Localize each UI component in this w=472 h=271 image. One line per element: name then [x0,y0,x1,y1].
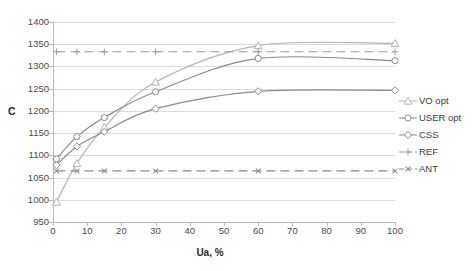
data-point-plus [255,48,262,55]
y-axis-tick [49,133,53,134]
legend-label: VO opt [418,95,449,106]
y-axis-tick [49,22,53,23]
x-axis-tick [190,222,191,226]
legend-label: REF [418,146,438,157]
plus-marker-icon [398,146,418,158]
y-axis-tick [49,66,53,67]
data-point-circle [153,89,159,95]
chart-legend: VO optUSER optCSSREFANT [398,92,472,177]
y-axis-tick [49,200,53,201]
series-line-vo-opt [56,42,395,202]
diamond-marker-icon [398,129,418,141]
data-point-plus [405,148,412,155]
y-axis-tick [49,155,53,156]
data-point-plus [152,48,159,55]
data-point-plus [101,48,108,55]
legend-item-ref[interactable]: REF [398,143,472,160]
triangle-marker-icon [398,95,418,107]
data-point-diamond [152,105,159,112]
data-point-circle [255,55,261,61]
x-axis-tick [258,222,259,226]
y-axis-tick [49,44,53,45]
legend-label: USER opt [418,112,461,123]
x-axis-tick [361,222,362,226]
data-point-circle [74,134,80,140]
series-line-user-opt [56,57,395,159]
circle-marker-icon [398,112,418,124]
chart-container: 950100010501100115012001250130013501400 … [0,0,472,271]
cross-marker-icon [398,163,418,175]
x-axis-tick [53,222,54,226]
data-point-triangle [73,160,81,167]
legend-label: CSS [418,129,439,140]
x-axis-tick [292,222,293,226]
data-point-plus [53,48,60,55]
data-point-circle [405,114,411,120]
data-point-plus [392,48,399,55]
legend-item-vo-opt[interactable]: VO opt [398,92,472,109]
x-axis-tick [121,222,122,226]
series-line-css [56,90,395,165]
data-point-plus [74,48,81,55]
data-point-circle [392,58,398,64]
x-axis-tick [156,222,157,226]
x-axis-tick [395,222,396,226]
data-point-diamond [255,88,262,95]
data-point-triangle [152,78,160,85]
x-axis-tick [224,222,225,226]
data-point-diamond [404,131,411,138]
y-axis-tick [49,178,53,179]
data-point-triangle [53,198,61,205]
x-axis-tick [327,222,328,226]
data-point-circle [101,114,107,120]
y-axis-tick [49,111,53,112]
legend-label: ANT [418,163,438,174]
legend-item-user-opt[interactable]: USER opt [398,109,472,126]
legend-item-css[interactable]: CSS [398,126,472,143]
legend-item-ant[interactable]: ANT [398,160,472,177]
x-axis-tick [87,222,88,226]
y-axis-tick [49,89,53,90]
